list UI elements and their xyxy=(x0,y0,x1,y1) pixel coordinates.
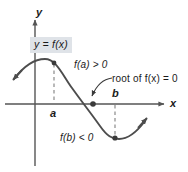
function-curve xyxy=(14,59,145,139)
root-callout-label: root of f(x) = 0 xyxy=(112,74,178,84)
function-graph-figure: y x y = f(x) f(a) > 0 root of f(x) = 0 f… xyxy=(0,0,188,172)
f-at-b-label: f(b) < 0 xyxy=(60,133,94,143)
x-tick-label-b: b xyxy=(112,88,119,99)
curve-arrow-left xyxy=(13,70,22,80)
x-tick-label-a: a xyxy=(50,108,56,119)
x-axis-label: x xyxy=(170,98,176,109)
y-axis-label: y xyxy=(36,7,42,18)
point-at-b xyxy=(112,135,117,140)
point-at-a xyxy=(52,61,57,66)
f-at-a-label: f(a) > 0 xyxy=(74,60,108,70)
curve-equation-label: y = f(x) xyxy=(30,37,72,53)
curve-arrow-right xyxy=(138,118,147,128)
graph-canvas xyxy=(0,0,188,172)
root-point xyxy=(90,101,96,107)
root-callout-arrow xyxy=(92,78,112,96)
